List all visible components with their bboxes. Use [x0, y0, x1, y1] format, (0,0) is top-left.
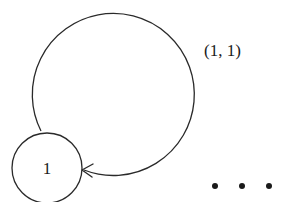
edge-label: (1, 1): [204, 41, 241, 60]
node-label: 1: [43, 159, 52, 178]
arrowhead-icon: [82, 164, 93, 177]
state-diagram: (1, 1) 1: [0, 0, 288, 202]
ellipsis-dot: [212, 183, 218, 189]
ellipsis-dot: [239, 183, 245, 189]
node-1: 1: [12, 133, 82, 202]
continuation-ellipsis: [212, 183, 272, 189]
ellipsis-dot: [266, 183, 272, 189]
